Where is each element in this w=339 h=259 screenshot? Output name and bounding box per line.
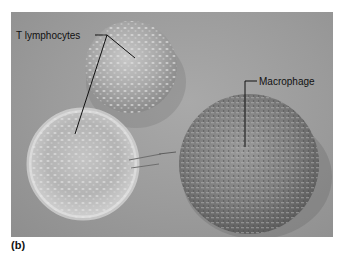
micrograph-figure: T lymphocytes Macrophage (b) — [0, 0, 339, 259]
panel-label: (b) — [11, 240, 25, 251]
macrophage-cell — [179, 94, 319, 234]
micrograph-image — [11, 12, 333, 237]
scanning-electron-micrograph: T lymphocytes Macrophage — [11, 12, 333, 237]
macrophage-label: Macrophage — [259, 77, 315, 87]
t-lymphocyte-lower — [29, 110, 137, 218]
t-lymphocytes-label: T lymphocytes — [16, 31, 80, 41]
